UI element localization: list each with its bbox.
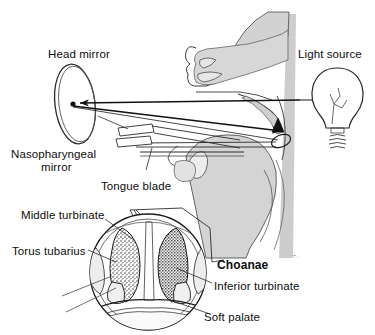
bulb-neck [331, 128, 344, 133]
label-nasopharyngeal-mirror-line2: mirror [41, 161, 72, 175]
bulb-base-ridge-4 [330, 147, 345, 149]
scan-artifact-mark: ⌁. [292, 251, 299, 260]
label-inferior-turbinate: Inferior turbinate [214, 280, 300, 294]
hard-palate [196, 92, 272, 100]
soft-palate-body [104, 312, 196, 330]
label-torus-tubarius: Torus tubarius [12, 245, 86, 259]
left-inferior-turbinate [108, 282, 125, 304]
sagittal-head-section [168, 12, 296, 258]
label-middle-turbinate: Middle turbinate [21, 209, 104, 223]
arrow-left-icon [80, 100, 300, 103]
bulb-base-ridge-2 [329, 139, 346, 141]
label-tongue-blade: Tongue blade [101, 180, 171, 194]
bulb-base-ridge-3 [329, 143, 346, 145]
mirror-handle [116, 136, 152, 147]
tongue-blade-handle [118, 124, 154, 136]
label-nasopharyngeal-mirror-line1: Nasopharyngeal [11, 148, 96, 162]
mandible-shade [174, 160, 196, 181]
label-soft-palate: Soft palate [204, 311, 260, 325]
label-head-mirror: Head mirror [48, 48, 110, 62]
head-mirror-rim-inner [55, 64, 100, 144]
bulb-filament [330, 88, 347, 124]
label-choanae: Choanae [217, 258, 268, 272]
ray-edge-line [73, 107, 278, 140]
label-light-source: Light source [298, 48, 362, 62]
leader-nasopharyngeal-mirror [98, 116, 128, 129]
leader-tongue-blade [146, 148, 152, 170]
bulb-glass [312, 68, 363, 128]
light-bulb-icon [312, 68, 363, 148]
bulb-base-ridge-1 [330, 135, 345, 137]
nasal-septum [144, 222, 154, 300]
mirror-reflect-stem [277, 122, 278, 132]
rhinoscopy-figure: ⌁. Head mirror Light source Nasopharynge… [0, 0, 375, 335]
head-mirror-icon [50, 62, 99, 146]
mirror-view-inset [88, 214, 211, 330]
tongue-blade-edge-top [152, 126, 240, 140]
